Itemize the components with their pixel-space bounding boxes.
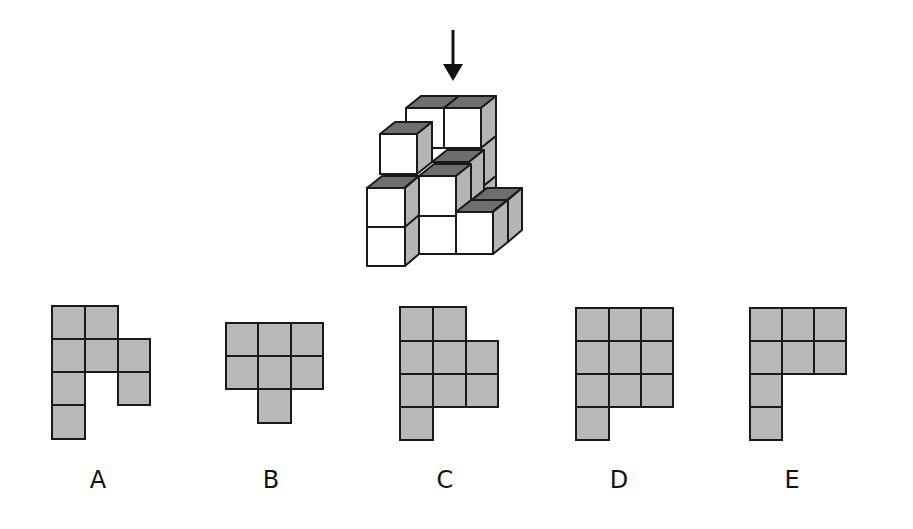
down-arrow-icon xyxy=(443,30,463,81)
option-c-label: C xyxy=(425,466,465,494)
option-d-shape[interactable] xyxy=(576,308,673,440)
option-e-shape[interactable] xyxy=(750,308,846,440)
option-b-label: B xyxy=(251,466,291,494)
option-a-shape[interactable] xyxy=(52,306,150,439)
option-b-shape[interactable] xyxy=(226,323,323,423)
option-a-label: A xyxy=(78,466,118,494)
cube-structure xyxy=(367,96,522,266)
option-c-shape[interactable] xyxy=(400,307,498,440)
option-e-label: E xyxy=(772,466,812,494)
puzzle-figure xyxy=(0,0,913,529)
option-d-label: D xyxy=(599,466,639,494)
